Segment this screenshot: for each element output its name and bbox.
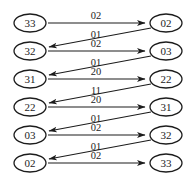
right-node-22-label: 22 — [161, 73, 172, 85]
edge-label: 02 — [91, 122, 102, 133]
left-node-03-label: 03 — [25, 129, 37, 141]
left-node-02-label: 02 — [25, 157, 36, 169]
diagram-svg: 0201020120112001020102333231220302020322… — [0, 0, 194, 182]
transition-diagram: 0201020120112001020102333231220302020322… — [0, 0, 194, 182]
edge-label: 02 — [91, 150, 102, 161]
left-node-31-label: 31 — [25, 73, 36, 85]
right-node-33-label: 33 — [161, 157, 173, 169]
edge-label: 20 — [91, 66, 102, 77]
right-node-02-label: 02 — [161, 17, 172, 29]
right-node-32-label: 32 — [161, 129, 172, 141]
right-node-31-label: 31 — [161, 101, 172, 113]
right-node-03-label: 03 — [161, 45, 173, 57]
left-node-33-label: 33 — [25, 17, 37, 29]
left-node-22-label: 22 — [25, 101, 36, 113]
edge-label: 02 — [91, 10, 102, 21]
edge-label: 02 — [91, 38, 102, 49]
left-node-32-label: 32 — [25, 45, 36, 57]
edge-label: 20 — [91, 94, 102, 105]
